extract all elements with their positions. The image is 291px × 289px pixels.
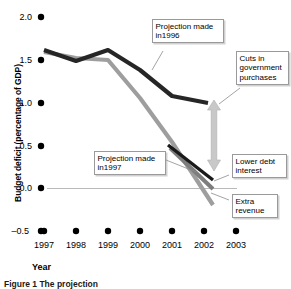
x-tick-label-2000: 2000: [123, 241, 157, 250]
x-tick-label-1999: 1999: [91, 241, 125, 250]
x-axis-title: Year: [32, 262, 51, 272]
callout-cuts-line3: purchases: [240, 73, 286, 83]
callout-cuts-line1: Cuts in: [240, 54, 286, 64]
callout-cuts-line2: government: [240, 63, 286, 73]
figure-caption: Figure 1 The projection: [4, 279, 98, 289]
gap-arrow: [208, 100, 221, 171]
series-line-projection-1996: [44, 50, 208, 103]
callout-projection-1997-line1: Projection made: [98, 154, 163, 164]
callout-projection-1996: Projection made in1996: [152, 19, 224, 43]
callout-extra-revenue-line1: Extra: [236, 197, 275, 207]
y-tick-label-neg-0-5: –0.5: [1, 227, 29, 236]
y-axis-title: Budget deficit (percentage of GDP): [13, 43, 23, 223]
y-tick-label-2-0: 2.0: [4, 13, 32, 22]
x-tick-label-1997: 1997: [27, 241, 61, 250]
callout-extra-revenue: Extra revenue: [232, 194, 278, 218]
callout-lower-debt-line2: interest: [236, 166, 284, 176]
y-tick-label-1-0: 1.0: [4, 99, 32, 108]
callout-extra-revenue-line2: revenue: [236, 206, 275, 216]
series-line-lower-debt-interest: [168, 145, 213, 180]
y-tick-label-0-0: 0.0: [4, 184, 32, 193]
y-tick-marks: [38, 14, 44, 234]
x-tick-marks: [41, 228, 239, 234]
x-tick-label-1998: 1998: [59, 241, 93, 250]
y-tick-label-1-5: 1.5: [4, 56, 32, 65]
y-tick-label-0-5: 0.5: [4, 142, 32, 151]
callout-cuts-in-government-purchases: Cuts in government purchases: [236, 51, 289, 85]
callout-lower-debt-line1: Lower debt: [236, 157, 284, 167]
x-tick-label-2003: 2003: [219, 241, 253, 250]
callout-projection-1996-line2: in1996: [156, 31, 221, 41]
series-line-extra-revenue: [170, 148, 213, 189]
callout-projection-1996-line1: Projection made: [156, 22, 221, 32]
x-tick-label-2001: 2001: [155, 241, 189, 250]
series-line-projection-1997: [44, 52, 213, 205]
callout-projection-1997-line2: in1997: [98, 163, 163, 173]
x-tick-label-2002: 2002: [187, 241, 221, 250]
callout-lower-debt-interest: Lower debt interest: [232, 154, 287, 178]
callout-projection-1997: Projection made in1997: [94, 151, 166, 175]
